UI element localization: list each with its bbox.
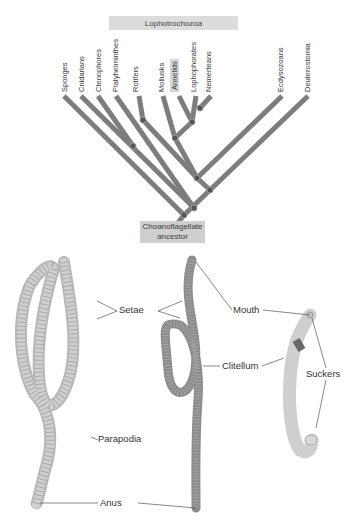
label-clitellum: Clitellum xyxy=(222,360,258,371)
annelid-illustrations xyxy=(0,0,359,525)
label-parapodia: Parapodia xyxy=(98,433,141,444)
earthworm xyxy=(165,260,198,508)
polychaete-worm xyxy=(21,262,73,505)
label-mouth: Mouth xyxy=(233,304,259,315)
label-setae: Setae xyxy=(119,304,144,315)
leech xyxy=(289,312,317,452)
label-suckers: Suckers xyxy=(306,368,340,379)
label-anus: Anus xyxy=(100,497,122,508)
